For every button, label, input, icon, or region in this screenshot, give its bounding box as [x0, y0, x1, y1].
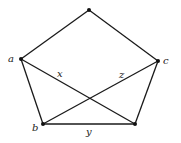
edge-c-d	[135, 61, 158, 124]
vertex-label-a: a	[8, 53, 14, 64]
edge-label-x: x	[57, 68, 63, 79]
edge-label-z: z	[118, 69, 125, 80]
vertex-a	[19, 57, 23, 61]
edge-top-c	[89, 10, 158, 61]
vertex-label-b: b	[32, 122, 38, 133]
edges	[21, 10, 158, 124]
vertices	[19, 8, 160, 126]
vertex-c	[156, 59, 160, 63]
edge-top-a	[21, 10, 89, 59]
vertex-b	[41, 122, 45, 126]
vertex-label-c: c	[163, 55, 169, 66]
vertex-d	[133, 122, 137, 126]
vertex-top	[87, 8, 91, 12]
edge-a-d	[21, 59, 135, 124]
edge-label-y: y	[85, 126, 92, 137]
graph-diagram: a c b x z y	[0, 0, 181, 143]
edge-a-b	[21, 59, 43, 124]
